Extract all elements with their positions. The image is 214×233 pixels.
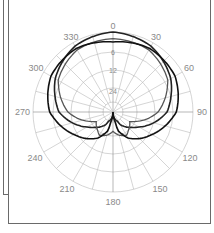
- angle-label-120: 120: [182, 153, 197, 163]
- radial-label-6: 6: [111, 49, 115, 56]
- radial-label-24: 24: [109, 88, 117, 95]
- angle-label-90: 90: [197, 107, 207, 117]
- polar-chart: 0 30 60 90 120 150 180 210 240 270 300 3…: [0, 0, 214, 233]
- grid-spoke-330: [73, 43, 113, 112]
- angle-label-330: 330: [63, 32, 78, 42]
- angle-label-180: 180: [105, 197, 120, 207]
- angle-label-240: 240: [27, 153, 42, 163]
- grid-spoke-315: [56, 55, 105, 104]
- grid-spoke-30: [113, 43, 153, 112]
- angle-label-270: 270: [15, 107, 30, 117]
- radial-label-12: 12: [109, 67, 117, 74]
- angle-label-150: 150: [152, 184, 167, 194]
- angle-label-0: 0: [110, 21, 115, 31]
- angle-label-300: 300: [28, 63, 43, 73]
- angle-label-210: 210: [59, 184, 74, 194]
- angle-label-30: 30: [151, 32, 161, 42]
- grid-spoke-45: [120, 55, 169, 104]
- angle-label-60: 60: [184, 63, 194, 73]
